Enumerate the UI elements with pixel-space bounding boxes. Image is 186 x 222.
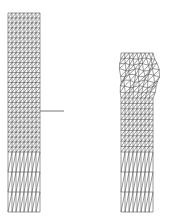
undeformed-mesh <box>8 13 40 212</box>
mesh-figure <box>0 0 186 222</box>
deformed-mesh <box>119 53 159 212</box>
